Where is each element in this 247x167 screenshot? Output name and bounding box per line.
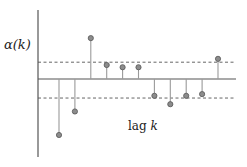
stem-marker xyxy=(104,62,109,67)
stem xyxy=(120,65,125,79)
stem-marker xyxy=(136,65,141,70)
stem-marker xyxy=(72,109,77,114)
stem xyxy=(215,56,220,79)
stem xyxy=(152,79,157,98)
stem-marker xyxy=(152,93,157,98)
stem-marker xyxy=(200,92,205,97)
stem-marker xyxy=(88,36,93,41)
stem xyxy=(56,79,61,138)
stem-marker xyxy=(120,65,125,70)
stem-marker xyxy=(56,132,61,137)
stem xyxy=(136,65,141,79)
stem xyxy=(104,62,109,79)
axes xyxy=(38,10,236,157)
stem xyxy=(72,79,77,114)
y-axis-label: α(k) xyxy=(4,37,31,52)
stem-marker xyxy=(168,102,173,107)
stem-marker xyxy=(184,93,189,98)
stem xyxy=(184,79,189,98)
stem xyxy=(168,79,173,107)
stem xyxy=(88,36,93,79)
stem-marker xyxy=(215,56,220,61)
autocorrelation-stem-plot: α(k) lag k xyxy=(0,0,247,167)
stem xyxy=(200,79,205,97)
x-axis-label: lag k xyxy=(128,119,158,133)
